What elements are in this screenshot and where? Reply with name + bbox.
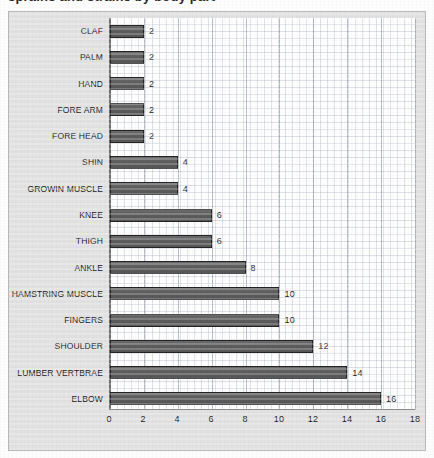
bar-value-label: 6 [217,236,222,246]
bar-row: 4 [110,156,415,169]
x-tick-label: 16 [376,414,386,424]
bar [110,156,178,169]
category-label: KNEE [79,209,103,222]
x-tick-label: 12 [308,414,318,424]
gridline-18 [415,18,416,410]
x-tick-label: 14 [342,414,352,424]
clipped-heading: sprains and strains by body part [0,0,434,9]
category-label: HAND [78,77,103,90]
plot-area: 22222446681010121416 [109,18,415,410]
bar [110,25,144,38]
x-tick-label: 6 [208,414,213,424]
category-label: THIGH [76,235,103,248]
bar [110,340,313,353]
bar [110,77,144,90]
bar-value-label: 8 [251,263,256,273]
category-label: SHOULDER [55,340,103,353]
bar-row: 8 [110,261,415,274]
category-label: SHIN [82,156,103,169]
bar-value-label: 4 [183,184,188,194]
bar-value-label: 2 [149,26,154,36]
x-tick-label: 0 [106,414,111,424]
category-label: LUMBER VERTBRAE [17,366,103,379]
bar [110,261,246,274]
bar [110,51,144,64]
bar-value-label: 2 [149,131,154,141]
bar-row: 2 [110,130,415,143]
bar-row: 2 [110,77,415,90]
category-label: GROWIN MUSCLE [27,182,103,195]
bar [110,103,144,116]
bar-row: 6 [110,209,415,222]
bar-row: 2 [110,51,415,64]
bar-value-label: 16 [386,394,396,404]
category-axis-labels: CLAFPALMHANDFORE ARMFORE HEADSHINGROWIN … [9,18,109,410]
bar-series: 22222446681010121416 [110,18,415,410]
bar-value-label: 10 [284,289,294,299]
bar [110,209,212,222]
x-tick-label: 8 [242,414,247,424]
bar-value-label: 6 [217,210,222,220]
category-label: FINGERS [64,314,103,327]
bar [110,130,144,143]
bar [110,287,279,300]
bar-value-label: 10 [284,315,294,325]
bar [110,314,279,327]
bar-row: 12 [110,340,415,353]
x-tick-label: 10 [274,414,284,424]
bar-row: 10 [110,314,415,327]
bar [110,392,381,405]
category-label: ANKLE [74,261,103,274]
bar-value-label: 12 [318,341,328,351]
bar-chart: CLAFPALMHANDFORE ARMFORE HEADSHINGROWIN … [8,11,426,451]
x-tick-label: 18 [410,414,420,424]
clipped-heading-text: sprains and strains by body part [8,0,215,4]
category-label: HAMSTRING MUSCLE [12,287,103,300]
bar-value-label: 14 [352,368,362,378]
bar-value-label: 2 [149,52,154,62]
x-axis-tick-labels: 024681012141618 [109,414,415,430]
bar-row: 10 [110,287,415,300]
bar-row: 6 [110,235,415,248]
bar-value-label: 2 [149,79,154,89]
bar-row: 4 [110,182,415,195]
bar-row: 14 [110,366,415,379]
bar-value-label: 4 [183,157,188,167]
category-label: FORE HEAD [52,130,103,143]
x-tick-label: 2 [140,414,145,424]
category-label: ELBOW [72,392,103,405]
bar-row: 16 [110,392,415,405]
bar [110,182,178,195]
bar [110,235,212,248]
bar-value-label: 2 [149,105,154,115]
category-label: PALM [80,51,103,64]
bar [110,366,347,379]
x-axis-line [109,409,415,410]
x-tick-label: 4 [174,414,179,424]
category-label: CLAF [81,25,103,38]
category-label: FORE ARM [57,103,103,116]
bar-row: 2 [110,25,415,38]
bar-row: 2 [110,103,415,116]
scanned-page: sprains and strains by body part CLAFPAL… [0,0,434,458]
